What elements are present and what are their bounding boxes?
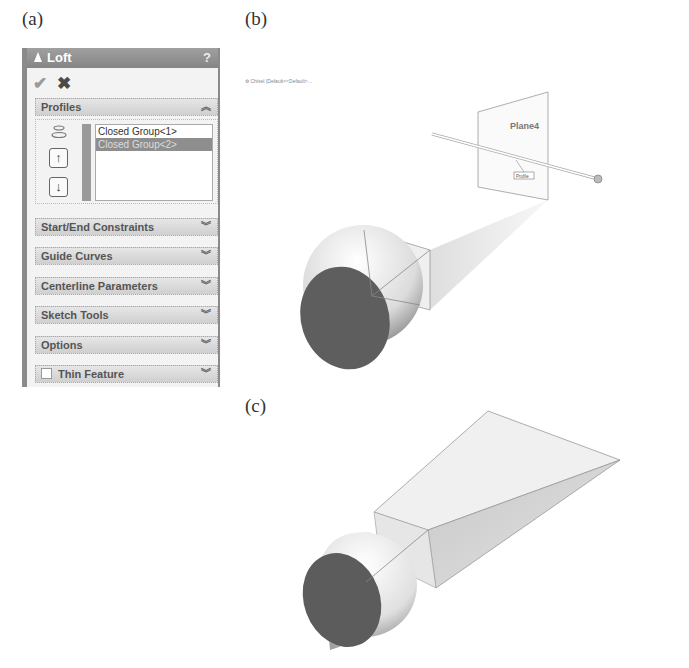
viewport-c[interactable]: [0, 0, 689, 668]
